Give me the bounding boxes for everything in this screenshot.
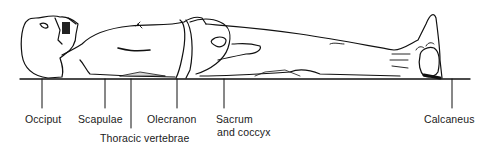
label-and-coccyx: and coccyx (217, 126, 271, 139)
label-olecranon: Olecranon (147, 113, 196, 126)
fingers (218, 44, 260, 61)
label-thoracic-vertebrae: Thoracic vertebrae (100, 132, 189, 145)
ear (40, 23, 48, 28)
label-calcaneus: Calcaneus (424, 113, 475, 126)
upper-arm (176, 20, 185, 78)
label-occiput: Occiput (25, 113, 61, 126)
support-pad (120, 72, 165, 76)
forearm (190, 19, 230, 74)
leg-top (206, 15, 442, 78)
hand (211, 37, 226, 47)
label-scapulae: Scapulae (78, 113, 123, 126)
label-sacrum: Sacrum (216, 113, 253, 126)
heel (419, 47, 439, 76)
leg-bottom (200, 70, 400, 76)
mouth-tube (62, 22, 70, 34)
supine-pressure-points-diagram: Occiput Scapulae Thoracic vertebrae Olec… (0, 0, 491, 155)
